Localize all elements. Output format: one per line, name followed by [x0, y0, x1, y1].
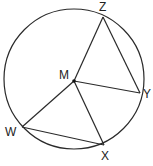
- segment-MY: [74, 81, 140, 93]
- segment-MX: [74, 81, 104, 145]
- label-Y: Y: [143, 87, 151, 101]
- segment-MZ: [74, 17, 103, 81]
- segment-MW: [22, 81, 74, 127]
- label-M: M: [59, 68, 69, 82]
- circle-diagram: Z M Y W X: [0, 0, 153, 166]
- label-Z: Z: [99, 0, 106, 14]
- label-W: W: [5, 125, 17, 139]
- center-point-M: [72, 79, 76, 83]
- label-X: X: [101, 149, 109, 163]
